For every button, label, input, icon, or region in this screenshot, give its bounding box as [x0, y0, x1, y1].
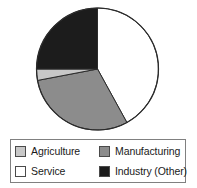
chart-legend: Agriculture Manufacturing Service Indust… — [10, 139, 186, 183]
pie-slice-industry-other[interactable] — [37, 8, 98, 69]
pie-chart-graphic — [0, 0, 197, 136]
legend-item-service[interactable]: Service — [15, 161, 99, 181]
legend-label-manufacturing: Manufacturing — [115, 146, 180, 157]
legend-item-manufacturing[interactable]: Manufacturing — [99, 141, 189, 161]
legend-item-agriculture[interactable]: Agriculture — [15, 141, 99, 161]
pie-slices — [37, 8, 159, 130]
legend-swatch-service — [15, 166, 26, 177]
pie-chart-figure: Agriculture Manufacturing Service Indust… — [0, 0, 197, 188]
legend-label-service: Service — [31, 166, 65, 177]
legend-swatch-agriculture — [15, 146, 26, 157]
legend-swatch-industry-other — [99, 166, 110, 177]
legend-swatch-manufacturing — [99, 146, 110, 157]
legend-label-agriculture: Agriculture — [31, 146, 80, 157]
legend-label-industry-other: Industry (Other) — [115, 166, 187, 177]
legend-item-industry-other[interactable]: Industry (Other) — [99, 161, 189, 181]
